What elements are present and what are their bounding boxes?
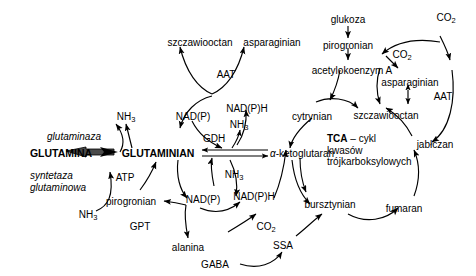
label-glutaminian: GLUTAMINIAN (122, 148, 195, 159)
pyruvate-carboxylation-arcs (377, 36, 453, 142)
label-gdh: GDH (203, 133, 225, 144)
label-pirogronian-right: pirogronian (323, 40, 373, 51)
tca-cycle-label: TCA – cykl kwasów trójkarboksylowych (327, 133, 411, 168)
label-bursztynian: bursztynian (304, 199, 355, 210)
tca-dash: – cykl (348, 133, 376, 144)
label-glutamina: GLUTAMINA (30, 148, 92, 159)
label-nh3-gdh-lower: NH3 (225, 169, 244, 183)
label-nh3-bottom-left: NH3 (79, 209, 98, 223)
label-co2-center: CO2 (256, 221, 275, 235)
label-acetylokoenzym-a: acetylokoenzym A (312, 65, 393, 76)
label-nadph-upper-right: NAD(P)H (226, 103, 268, 114)
label-nadp-upper-left: NAD(P) (176, 111, 210, 122)
label-szczawiooctan-left: szczawiooctan (167, 37, 232, 48)
label-nh3-gdh-upper: NH3 (230, 119, 249, 133)
label-atp: ATP (116, 172, 135, 183)
label-alpha-ketoglutaran: α-ketoglutaran (270, 148, 334, 159)
label-co2-right-mid: CO2 (392, 49, 411, 63)
label-glutaminaza: glutaminaza (47, 131, 101, 142)
label-jablczan: jabłczan (417, 139, 454, 150)
label-cytrynian: cytrynian (292, 111, 332, 122)
label-fumaran: fumaran (386, 203, 423, 214)
metabolic-pathway-diagram: szczawiooctan asparaginian AAT NH3 gluta… (0, 0, 476, 276)
glutaminian-ketoglutaran-double-arrow (202, 150, 268, 156)
label-ssa: SSA (273, 240, 293, 251)
tca-line3: trójkarboksylowych (327, 156, 411, 167)
label-szczawiooctan-right: szczawiooctan (353, 110, 418, 121)
label-nadp-lower-left: NAD(P) (186, 194, 220, 205)
label-gpt: GPT (130, 221, 151, 232)
label-aat-right: AAT (434, 91, 453, 102)
label-nadph-lower-right: NAD(P)H (233, 191, 275, 202)
nh3-release-arrow (126, 124, 132, 148)
label-pirogronian-left: pirogronian (106, 196, 156, 207)
tca-abbrev: TCA (327, 133, 348, 144)
label-alanina: alanina (172, 242, 204, 253)
label-co2-right-top: CO2 (436, 12, 455, 26)
label-nh3-top-left: NH3 (117, 111, 136, 125)
label-aat-left: AAT (217, 69, 236, 80)
label-asparaginian-left: asparaginian (243, 37, 300, 48)
label-glukoza: glukoza (331, 14, 365, 25)
tca-line2: kwasów (327, 145, 363, 156)
label-asparaginian-right: asparaginian (381, 77, 438, 88)
label-syntetaza-glutaminowa: syntetaza glutaminowa (30, 170, 86, 193)
label-gaba: GABA (201, 259, 229, 270)
